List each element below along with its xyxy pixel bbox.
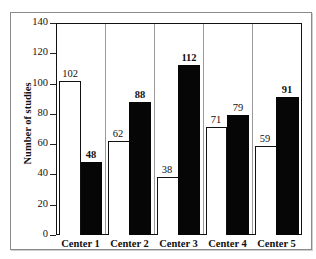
y-tick-label: 40	[18, 167, 48, 178]
value-label: 48	[76, 149, 106, 160]
bar-center-4-white	[206, 127, 227, 235]
value-label: 62	[103, 128, 133, 139]
value-label: 88	[125, 89, 155, 100]
x-tick-label: Center 1	[56, 238, 105, 249]
y-tick-label: 100	[18, 77, 48, 88]
bar-center-2-white	[108, 141, 130, 235]
x-tick-label: Center 3	[154, 238, 203, 249]
category-separator	[252, 24, 253, 234]
y-tick-label: 120	[18, 46, 48, 57]
value-label: 79	[223, 102, 253, 113]
x-tick-label: Center 5	[252, 238, 301, 249]
bar-center-2-black	[129, 102, 151, 235]
y-tick-label: 80	[18, 107, 48, 118]
y-tick-label: 20	[18, 198, 48, 209]
y-tick	[50, 235, 56, 236]
value-label: 91	[272, 84, 302, 95]
bar-center-4-black	[227, 115, 249, 235]
bar-center-3-black	[178, 65, 200, 235]
category-separator	[154, 24, 155, 234]
bar-center-1-black	[81, 162, 102, 235]
y-tick-label: 60	[18, 137, 48, 148]
value-label: 59	[250, 133, 280, 144]
x-tick-label: Center 2	[105, 238, 154, 249]
bar-center-3-white	[157, 177, 179, 235]
bar-center-5-white	[255, 146, 277, 235]
y-axis-label: Number of studies	[22, 79, 33, 169]
value-label: 112	[174, 52, 204, 63]
value-label: 102	[55, 68, 85, 79]
bar-center-5-black	[276, 97, 299, 235]
value-label: 71	[201, 114, 231, 125]
x-tick-label: Center 4	[203, 238, 252, 249]
y-tick-label: 0	[18, 228, 48, 239]
value-label: 38	[152, 164, 182, 175]
y-tick-label: 140	[18, 16, 48, 27]
